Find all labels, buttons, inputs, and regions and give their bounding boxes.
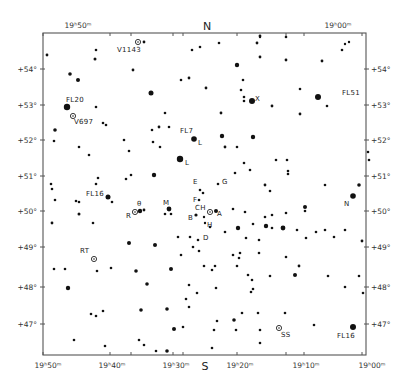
star [88,154,91,157]
star [236,265,239,268]
star-label: FL7 [180,127,193,135]
star [66,286,70,290]
star-label: RT [80,247,90,255]
star [218,42,221,45]
star [188,306,191,309]
star [299,113,302,116]
star [244,211,247,214]
star [235,329,238,332]
star-label: θ [137,200,142,208]
star [326,105,329,108]
star [203,216,205,218]
star [169,267,173,271]
ra-label-bottom: 19ʰ20ᵐ [227,361,254,370]
star [285,256,288,259]
star [344,229,347,232]
north-label: N [203,20,211,33]
star [350,324,356,330]
star [324,184,327,187]
star [105,124,108,127]
star-label: V1143 [117,46,141,54]
dec-label-left: +50° [17,207,37,216]
ra-label-bottom: 19ʰ50ᵐ [35,361,62,370]
star [235,63,239,67]
star [361,240,364,243]
star [264,224,268,228]
ra-label-top: 19ʰ50ᵐ [65,21,92,30]
star [242,79,245,82]
star [123,139,126,142]
star [199,189,202,192]
star [104,345,107,348]
star [125,178,128,181]
star [269,275,272,278]
variable-star-markers [70,39,281,330]
star [286,159,289,162]
star-labels: V1143FL20V697FL51XFL7LLEGFCHFL16θMRBAHND… [66,46,360,340]
star [238,257,241,260]
star [172,327,176,331]
star [344,43,346,45]
star [92,222,95,225]
star [73,339,76,342]
star-label: F [193,196,197,204]
dec-label-right: +51° [371,172,391,181]
star [158,126,161,129]
star [191,136,197,142]
star [285,36,288,39]
star [271,105,274,108]
star [281,226,286,231]
star-label: FL16 [337,332,355,340]
star [367,151,370,154]
star [264,184,267,187]
star [243,96,246,99]
star [78,146,81,149]
ra-label-bottom: 19ʰ00ᵐ [359,361,386,370]
star [164,213,167,216]
star [303,205,307,209]
star [177,156,183,162]
star [185,298,188,301]
star [298,265,301,268]
star [159,146,162,149]
star [327,275,330,278]
star [220,134,224,138]
star-label: L [198,139,202,147]
star [54,199,57,202]
dec-label-right: +48° [371,283,391,292]
star [198,250,201,253]
star [315,231,318,234]
variable-star-icon [207,209,212,214]
star [76,78,80,82]
star [296,229,299,232]
variable-star-icon [276,325,281,330]
star [182,326,185,329]
star [132,69,135,72]
star [313,324,316,327]
star [196,292,199,295]
star [78,213,81,216]
dec-label-right: +54° [371,65,391,74]
star [189,236,192,239]
star [256,42,259,45]
star [224,231,227,234]
ra-label-bottom: 19ʰ40ᵐ [99,361,126,370]
star [102,122,105,125]
dec-label-left: +54° [17,65,37,74]
star [75,200,78,203]
star [232,254,235,257]
star [191,49,194,52]
variable-star-icon [91,256,96,261]
star [199,46,202,49]
star-label: G [222,178,228,186]
star [358,275,361,278]
dec-label-left: +53° [17,101,37,110]
star [165,349,169,353]
star [64,268,67,271]
star [134,269,138,273]
star [252,223,255,226]
dec-label-left: +51° [17,172,37,181]
star [95,106,98,109]
star [258,239,261,242]
star [217,183,220,186]
